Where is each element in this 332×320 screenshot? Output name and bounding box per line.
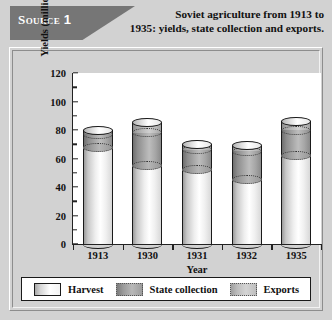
legend-label: State collection bbox=[150, 284, 218, 295]
chart-panel: Yields (millions of tons) 02040608010012… bbox=[9, 47, 323, 311]
source-badge-number: 1 bbox=[64, 12, 72, 27]
y-tick-label: 0 bbox=[61, 239, 66, 250]
y-tick-mark bbox=[73, 101, 78, 102]
bar-top-ellipse-1932 bbox=[232, 141, 262, 150]
bar-base-ellipse bbox=[132, 240, 162, 249]
y-axis-label: Yields (millions of tons) bbox=[39, 0, 50, 79]
x-tick-mark bbox=[321, 244, 322, 250]
y-tick-mark bbox=[73, 215, 78, 216]
x-tick-mark bbox=[271, 244, 272, 250]
bar-base-ellipse bbox=[83, 240, 113, 249]
legend-label: Exports bbox=[264, 284, 300, 295]
bar-top-ellipse-1913 bbox=[83, 126, 113, 135]
x-tick-label-1932: 1932 bbox=[236, 250, 257, 261]
bar-base-ellipse bbox=[281, 240, 311, 249]
bar-1931 bbox=[182, 144, 212, 244]
legend-swatch-harvest bbox=[34, 283, 61, 296]
legend-item-harvest: Harvest bbox=[34, 283, 104, 296]
y-tick-mark bbox=[73, 201, 77, 202]
x-tick-label-1931: 1931 bbox=[187, 250, 208, 261]
x-tick-mark bbox=[123, 244, 124, 250]
figure-title-line-1: Soviet agriculture from 1913 to bbox=[106, 7, 324, 21]
source-figure: Source 1 Soviet agriculture from 1913 to… bbox=[0, 0, 332, 320]
y-tick-label: 60 bbox=[56, 153, 67, 164]
x-tick-mark bbox=[172, 244, 173, 250]
legend-swatch-state bbox=[116, 283, 143, 296]
legend-swatch-exports bbox=[230, 283, 257, 296]
y-tick-label: 40 bbox=[56, 182, 67, 193]
bar-segment-harvest bbox=[232, 180, 262, 244]
bar-segment-harvest bbox=[281, 156, 311, 244]
x-tick-label-1930: 1930 bbox=[137, 250, 158, 261]
chart-panel-inner: Yields (millions of tons) 02040608010012… bbox=[12, 50, 320, 308]
y-tick-mark bbox=[73, 186, 78, 187]
y-tick-label: 120 bbox=[50, 68, 66, 79]
bar-base-ellipse bbox=[182, 240, 212, 249]
y-tick-label: 20 bbox=[56, 210, 67, 221]
bar-1930 bbox=[132, 123, 162, 244]
bar-1913 bbox=[83, 130, 113, 244]
y-tick-mark bbox=[73, 87, 77, 88]
x-tick-mark bbox=[222, 244, 223, 250]
bar-segment-harvest bbox=[132, 166, 162, 244]
bar-divider-state-1935 bbox=[281, 126, 311, 135]
x-axis-label: Year bbox=[187, 264, 208, 275]
legend-item-exports: Exports bbox=[230, 283, 300, 296]
y-tick-label: 80 bbox=[56, 125, 67, 136]
y-tick-mark bbox=[73, 144, 77, 145]
plot-area: Yields (millions of tons) 02040608010012… bbox=[72, 73, 321, 245]
y-tick-mark bbox=[73, 229, 77, 230]
bar-top-ellipse-1935 bbox=[281, 117, 311, 126]
y-tick-mark bbox=[73, 158, 78, 159]
legend-label: Harvest bbox=[68, 284, 104, 295]
x-tick-label-1913: 1913 bbox=[87, 250, 108, 261]
x-tick-label-1935: 1935 bbox=[286, 250, 307, 261]
figure-title-line-2: 1935: yields, state collection and expor… bbox=[106, 21, 324, 35]
bar-top-ellipse-1931 bbox=[182, 140, 212, 149]
bar-1932 bbox=[232, 146, 262, 244]
x-tick-mark bbox=[73, 244, 74, 250]
bar-segment-harvest bbox=[83, 147, 113, 244]
y-tick-label: 100 bbox=[50, 96, 66, 107]
bar-1935 bbox=[281, 121, 311, 244]
bar-base-ellipse bbox=[232, 240, 262, 249]
chart-legend: HarvestState collectionExports bbox=[21, 277, 311, 301]
legend-item-state: State collection bbox=[116, 283, 218, 296]
y-tick-mark bbox=[73, 129, 78, 130]
bar-divider-harvest-1913 bbox=[83, 143, 113, 152]
figure-title: Soviet agriculture from 1913 to 1935: yi… bbox=[106, 7, 324, 35]
y-tick-mark bbox=[73, 72, 78, 73]
y-tick-mark bbox=[73, 172, 77, 173]
y-tick-mark bbox=[73, 115, 77, 116]
bar-segment-harvest bbox=[182, 170, 212, 244]
